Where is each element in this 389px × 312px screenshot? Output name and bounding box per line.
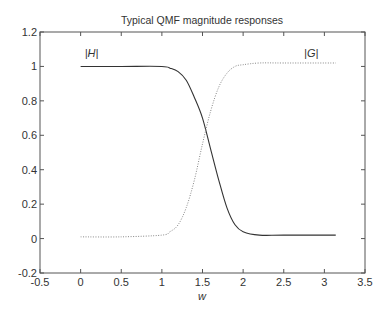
- y-tick-label: 1.2: [22, 26, 37, 38]
- x-tick-label: 1.5: [195, 276, 210, 288]
- y-tick-label: -0.2: [18, 267, 37, 279]
- label-h: |H|: [85, 47, 99, 59]
- x-tick-label: 0: [78, 276, 84, 288]
- y-tick-label: 1: [31, 60, 37, 72]
- x-tick-label: 0.5: [114, 276, 129, 288]
- series-g-line: [81, 63, 336, 237]
- annotations: |H||G|: [85, 47, 319, 59]
- y-tick-label: 0.4: [22, 164, 37, 176]
- x-tick-label: 3.5: [357, 276, 372, 288]
- plot-area: [81, 63, 336, 237]
- x-axis-label: w: [198, 290, 207, 302]
- y-tick-label: 0.8: [22, 95, 37, 107]
- x-tick-label: 2.5: [276, 276, 291, 288]
- series-h-line: [81, 66, 336, 235]
- axes: -0.500.511.522.533.5-0.200.20.40.60.811.…: [18, 26, 373, 288]
- x-tick-label: 3: [321, 276, 327, 288]
- x-tick-label: 1: [159, 276, 165, 288]
- y-tick-label: 0.2: [22, 198, 37, 210]
- chart: Typical QMF magnitude responses -0.500.5…: [0, 0, 389, 312]
- chart-title: Typical QMF magnitude responses: [121, 14, 283, 26]
- x-tick-label: 2: [240, 276, 246, 288]
- label-g: |G|: [304, 47, 318, 59]
- y-tick-label: 0: [31, 233, 37, 245]
- y-tick-label: 0.6: [22, 129, 37, 141]
